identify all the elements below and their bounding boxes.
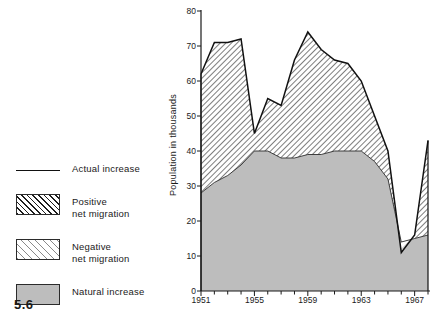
figure-number: 5.6 bbox=[14, 297, 33, 312]
legend-item-positive-net-migration: Positive net migration bbox=[16, 193, 166, 221]
sparse-hatch-swatch bbox=[16, 239, 60, 260]
dense-hatch-swatch bbox=[16, 194, 60, 215]
plot-svg bbox=[168, 4, 433, 316]
legend-swatch-wrap bbox=[16, 238, 62, 260]
legend-item-natural-increase: Natural increase bbox=[16, 283, 166, 305]
chart-area: Population in thousands 0102030405060708… bbox=[168, 4, 433, 316]
legend-item-label: Actual increase bbox=[62, 160, 140, 176]
legend-item-negative-net-migration: Negative net migration bbox=[16, 238, 166, 266]
legend-swatch-wrap bbox=[16, 193, 62, 215]
legend-swatch-wrap bbox=[16, 160, 62, 171]
chart-legend: Actual increase Positive net migration N… bbox=[16, 160, 166, 322]
legend-item-label: Natural increase bbox=[62, 283, 144, 299]
solid-line-swatch bbox=[16, 170, 60, 171]
legend-item-actual-increase: Actual increase bbox=[16, 160, 166, 176]
legend-item-label: Positive net migration bbox=[62, 193, 130, 221]
legend-item-label: Negative net migration bbox=[62, 238, 130, 266]
natural-increase-area bbox=[201, 151, 428, 291]
